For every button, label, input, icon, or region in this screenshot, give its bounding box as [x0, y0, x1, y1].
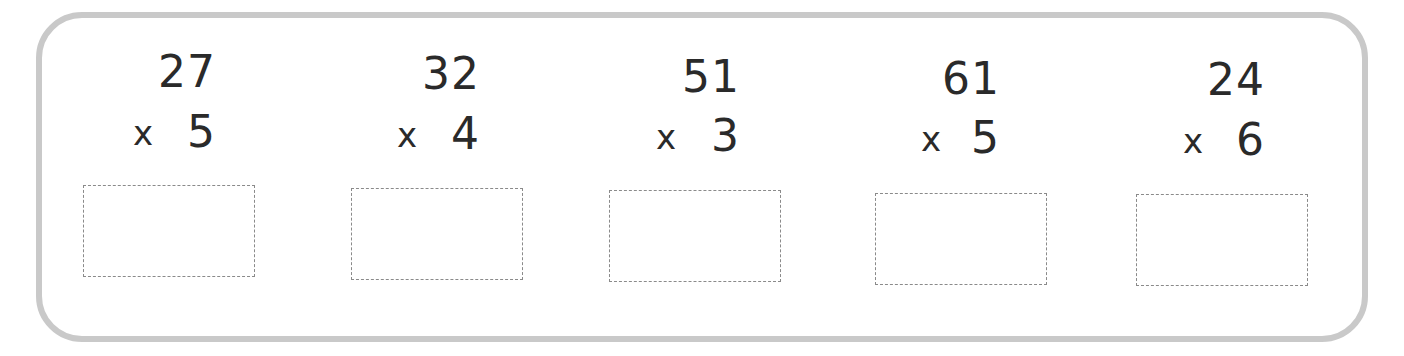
multiplicand: 61 [880, 57, 1000, 101]
multiplier: 5 [880, 116, 1000, 160]
multiplicand: 27 [96, 50, 216, 94]
multiplicand: 32 [360, 52, 480, 96]
answer-box[interactable] [875, 193, 1047, 285]
answer-box[interactable] [83, 185, 255, 277]
answer-box[interactable] [609, 190, 781, 282]
multiplier: 4 [360, 112, 480, 156]
multiplier: 6 [1145, 118, 1265, 162]
answer-box[interactable] [351, 188, 523, 280]
multiplicand: 51 [620, 55, 740, 99]
multiplier: 5 [96, 110, 216, 154]
multiplier: 3 [620, 114, 740, 158]
multiplicand: 24 [1145, 58, 1265, 102]
answer-box[interactable] [1136, 194, 1308, 286]
